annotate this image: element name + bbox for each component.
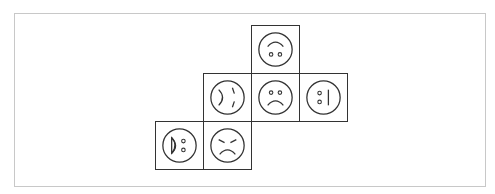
face-cell-center: [251, 73, 300, 122]
sideways-neutral-face-icon: [300, 74, 347, 121]
face-cell-bottom-left: [155, 121, 204, 170]
face-cell-top: [251, 25, 300, 74]
sideways-angry-face-icon: [204, 74, 251, 121]
face-cell-bottom: [203, 121, 252, 170]
angry-face-icon: [204, 122, 251, 169]
frown-face-icon: [252, 74, 299, 121]
cube-net: [0, 0, 495, 194]
sideways-open-mouth-face-icon: [156, 122, 203, 169]
upside-down-smile-icon: [252, 26, 299, 73]
face-cell-right: [299, 73, 348, 122]
face-cell-left: [203, 73, 252, 122]
